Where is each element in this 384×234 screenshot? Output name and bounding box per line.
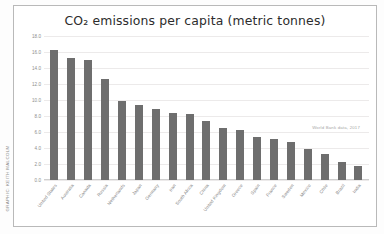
bar: [270, 139, 278, 180]
x-label-slot: Mexico: [299, 182, 316, 234]
y-axis-tick-label: 10.0: [32, 98, 41, 103]
x-label-slot: Canada: [80, 182, 97, 234]
y-axis-tick-label: 12.0: [32, 82, 41, 87]
bar-slot: [232, 36, 249, 180]
x-axis-tick-label: France: [265, 183, 278, 198]
bar-series: [44, 36, 369, 180]
y-axis-tick-label: 14.0: [32, 66, 41, 71]
x-label-slot: Brazil: [333, 182, 350, 234]
x-label-slot: Russia: [97, 182, 114, 234]
bar: [50, 50, 58, 180]
x-label-slot: Chile: [316, 182, 333, 234]
bar-slot: [80, 36, 97, 180]
bar-slot: [130, 36, 147, 180]
bar: [101, 79, 109, 180]
bar: [152, 109, 160, 180]
x-axis-tick-label: China: [199, 183, 210, 196]
bar-slot: [266, 36, 283, 180]
y-axis-tick-label: 4.0: [35, 146, 41, 151]
x-axis-tick-label: India: [352, 183, 362, 194]
bar-slot: [249, 36, 266, 180]
bar: [84, 60, 92, 180]
x-axis-labels: United StatesAustraliaCanadaRussiaNether…: [44, 182, 369, 234]
bar: [354, 166, 362, 180]
y-axis-tick-label: 2.0: [35, 162, 41, 167]
x-label-slot: Greece: [232, 182, 249, 234]
bar-slot: [147, 36, 164, 180]
x-axis-tick-label: Greece: [231, 183, 244, 198]
bar: [219, 128, 227, 180]
bar: [169, 113, 177, 180]
x-label-slot: France: [266, 182, 283, 234]
bar-slot: [215, 36, 232, 180]
plot-area: 0.02.04.06.08.010.012.014.016.018.0 Worl…: [44, 36, 369, 180]
bar: [135, 105, 143, 180]
bar: [236, 130, 244, 180]
x-axis-tick-label: Russia: [96, 183, 109, 197]
bar: [253, 137, 261, 180]
chart-title-text: CO₂ emissions per capita (metric tonnes): [65, 13, 326, 28]
chart-card: CO₂ emissions per capita (metric tonnes)…: [13, 5, 377, 227]
bar-slot: [198, 36, 215, 180]
y-axis-tick-label: 6.0: [35, 130, 41, 135]
bar-slot: [114, 36, 131, 180]
bar-slot: [350, 36, 367, 180]
x-label-slot: Germany: [147, 182, 164, 234]
bar-slot: [282, 36, 299, 180]
source-note: World Bank data, 2017: [312, 125, 360, 130]
bar-slot: [63, 36, 80, 180]
bar-slot: [299, 36, 316, 180]
chart-page: GRAPHIC: KEITH MALCOLM CO₂ emissions per…: [0, 0, 384, 234]
y-axis-tick-label: 18.0: [32, 34, 41, 39]
x-label-slot: United Kingdom: [215, 182, 232, 234]
watermark-text: GRAPHIC: KEITH MALCOLM: [5, 145, 10, 211]
x-label-slot: India: [350, 182, 367, 234]
x-label-slot: Sweden: [282, 182, 299, 234]
chart-title: CO₂ emissions per capita (metric tonnes): [14, 13, 376, 28]
y-axis-tick-label: 0.0: [35, 178, 41, 183]
x-axis-tick-label: Canada: [78, 183, 92, 199]
x-axis-tick-label: Spain: [250, 183, 261, 196]
bar: [287, 142, 295, 180]
x-axis-tick-label: Brazil: [334, 183, 345, 195]
x-label-slot: Iran: [164, 182, 181, 234]
bar: [338, 162, 346, 180]
x-label-slot: Spain: [249, 182, 266, 234]
bar-slot: [181, 36, 198, 180]
x-axis-tick-label: Mexico: [299, 183, 312, 198]
x-label-slot: South Africa: [181, 182, 198, 234]
graphic-credit-watermark: GRAPHIC: KEITH MALCOLM: [1, 128, 13, 228]
bar: [304, 149, 312, 180]
y-axis-tick-label: 8.0: [35, 114, 41, 119]
x-axis-tick-label: Australia: [60, 183, 75, 201]
bar: [67, 58, 75, 180]
y-axis-tick-label: 16.0: [32, 50, 41, 55]
x-label-slot: Japan: [130, 182, 147, 234]
bar-slot: [164, 36, 181, 180]
x-axis-tick-label: Iran: [168, 183, 177, 193]
bar-slot: [97, 36, 114, 180]
x-axis-tick-label: Japan: [131, 183, 143, 196]
x-axis-tick-label: Chile: [318, 183, 329, 195]
x-label-slot: United States: [46, 182, 63, 234]
x-axis-tick-label: United States: [37, 183, 58, 208]
bar: [118, 101, 126, 180]
bar: [186, 114, 194, 180]
bar: [202, 121, 210, 180]
x-axis-tick-label: Sweden: [281, 183, 295, 199]
bar-slot: [46, 36, 63, 180]
gridline: [44, 180, 369, 181]
x-label-slot: Netherlands: [114, 182, 131, 234]
bar-slot: [316, 36, 333, 180]
x-label-slot: Australia: [63, 182, 80, 234]
bar: [321, 154, 329, 180]
bar-slot: [333, 36, 350, 180]
